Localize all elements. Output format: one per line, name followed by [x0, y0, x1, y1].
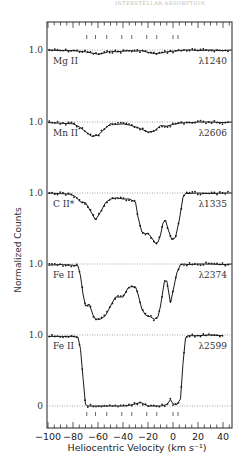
- data-point: [81, 202, 83, 204]
- data-point: [120, 295, 122, 297]
- data-point: [175, 277, 177, 279]
- data-point: [95, 134, 97, 136]
- data-point: [48, 336, 50, 338]
- data-point: [123, 49, 125, 51]
- data-point: [109, 199, 111, 201]
- data-point: [59, 263, 61, 265]
- data-point: [147, 315, 149, 317]
- data-point: [186, 192, 188, 194]
- data-point: [68, 193, 70, 195]
- data-point: [202, 121, 204, 123]
- data-point: [205, 335, 207, 337]
- data-point: [167, 403, 169, 405]
- x-tick-label: −60: [88, 431, 108, 442]
- data-point: [101, 317, 103, 319]
- data-point: [90, 134, 92, 136]
- data-point: [136, 291, 138, 293]
- y-axis-title: Normalized Counts: [13, 207, 23, 293]
- data-point: [51, 50, 53, 52]
- ion-label: Mn II: [53, 128, 78, 138]
- data-point: [197, 335, 199, 337]
- data-point: [169, 398, 171, 400]
- data-point: [216, 194, 218, 196]
- data-point: [178, 269, 180, 271]
- data-point: [128, 404, 130, 406]
- data-point: [101, 53, 103, 55]
- data-point: [123, 197, 125, 199]
- data-point: [211, 263, 213, 265]
- data-point: [213, 120, 215, 122]
- data-point: [200, 264, 202, 266]
- data-point: [65, 124, 67, 126]
- data-point: [79, 51, 81, 53]
- data-point: [142, 404, 144, 406]
- data-point: [95, 52, 97, 54]
- data-point: [79, 344, 81, 346]
- data-point: [224, 49, 226, 51]
- data-point: [189, 122, 191, 124]
- data-point: [134, 286, 136, 288]
- fit-curve: [48, 335, 223, 406]
- x-axis-title: Heliocentric Velocity (km s⁻¹): [68, 442, 207, 453]
- data-point: [142, 309, 144, 311]
- wavelength-label: λ2374: [198, 270, 227, 280]
- data-point: [191, 48, 193, 50]
- data-point: [95, 218, 97, 220]
- data-point: [68, 264, 70, 266]
- data-point: [183, 264, 185, 266]
- data-point: [222, 262, 224, 264]
- data-point: [84, 399, 86, 401]
- data-point: [191, 191, 193, 193]
- data-point: [114, 198, 116, 200]
- data-point: [183, 352, 185, 354]
- data-point: [90, 51, 92, 53]
- data-point: [213, 51, 215, 53]
- wavelength-label: λ2606: [198, 128, 227, 138]
- data-point: [202, 48, 204, 50]
- data-point: [145, 403, 147, 405]
- data-point: [92, 214, 94, 216]
- data-point: [70, 50, 72, 52]
- data-point: [169, 300, 171, 302]
- data-point: [70, 121, 72, 123]
- data-point: [200, 336, 202, 338]
- data-point: [194, 263, 196, 265]
- data-point: [216, 334, 218, 336]
- wavelength-label: λ2599: [198, 341, 227, 351]
- data-point: [172, 52, 174, 54]
- data-point: [73, 336, 75, 338]
- data-point: [54, 48, 56, 50]
- data-point: [139, 225, 141, 227]
- data-point: [194, 49, 196, 51]
- data-point: [54, 263, 56, 265]
- data-point: [70, 266, 72, 268]
- data-point: [142, 127, 144, 129]
- data-point: [134, 402, 136, 404]
- data-point: [183, 195, 185, 197]
- data-point: [161, 126, 163, 128]
- data-point: [84, 50, 86, 52]
- data-point: [175, 123, 177, 125]
- data-point: [81, 286, 83, 288]
- x-tick-label: 40: [217, 431, 229, 442]
- data-point: [84, 302, 86, 304]
- data-point: [161, 403, 163, 405]
- data-point: [65, 265, 67, 267]
- data-point: [48, 263, 50, 265]
- data-point: [158, 126, 160, 128]
- continuum-label: 1.0: [29, 45, 44, 55]
- data-point: [90, 306, 92, 308]
- data-point: [51, 263, 53, 265]
- data-point: [142, 232, 144, 234]
- data-point: [106, 50, 108, 52]
- data-point: [54, 193, 56, 195]
- data-point: [54, 336, 56, 338]
- data-point: [183, 123, 185, 125]
- data-point: [222, 123, 224, 125]
- data-point: [213, 192, 215, 194]
- data-point: [178, 402, 180, 404]
- data-point: [202, 333, 204, 335]
- data-point: [191, 122, 193, 124]
- data-point: [224, 122, 226, 124]
- data-point: [145, 50, 147, 52]
